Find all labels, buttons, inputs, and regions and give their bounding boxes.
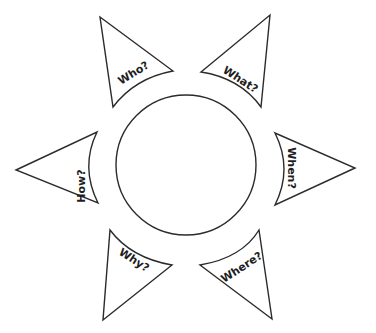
- ray-what-triangle: [201, 15, 270, 107]
- center-circle: [116, 95, 256, 235]
- ray-why: Why?: [103, 230, 172, 320]
- ray-where: Where?: [200, 230, 272, 319]
- ray-when: When?: [275, 133, 355, 205]
- five-w-sun-diagram: Who? What? How? When? Why? Where?: [0, 0, 376, 333]
- ray-who-triangle: [100, 17, 173, 107]
- ray-why-triangle: [103, 230, 172, 320]
- ray-when-label: When?: [285, 147, 298, 189]
- ray-how-label: How?: [75, 169, 88, 202]
- ray-who: Who?: [100, 17, 173, 107]
- ray-how: How?: [16, 132, 98, 203]
- ray-what: What?: [201, 15, 270, 107]
